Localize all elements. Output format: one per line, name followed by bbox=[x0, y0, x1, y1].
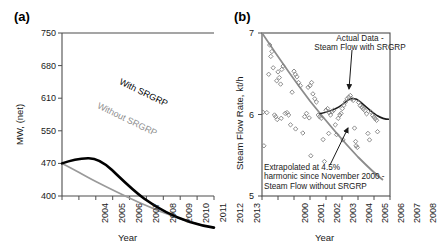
panel-b-annotation-extrapolated-line3: Steam Flow without SRGRP bbox=[264, 182, 385, 191]
panel-b-y-axis-title: Steam Flow Rate, kt/h bbox=[234, 77, 245, 170]
panel-b-x-ticks bbox=[262, 196, 390, 200]
panel-a-ytick-680: 680 bbox=[16, 61, 56, 71]
panel-b: (b) bbox=[215, 0, 433, 248]
panel-b-x-axis-title: Year bbox=[315, 232, 334, 243]
panel-a-y-ticks bbox=[58, 33, 62, 196]
panel-a-x-axis-title: Year bbox=[118, 232, 137, 243]
panel-b-annotation-actual: Actual Data - Steam Flow with SRGRP bbox=[300, 34, 420, 53]
panel-a-xtick-2010: 2010 bbox=[201, 203, 211, 237]
panel-b-annotation-extrapolated-line2: harmonic since November 2000 - bbox=[264, 172, 385, 181]
panel-a-xtick-2009: 2009 bbox=[184, 203, 194, 237]
panel-b-annotation-actual-line2: Steam Flow with SRGRP bbox=[300, 43, 420, 52]
panel-a: (a) bbox=[0, 0, 218, 248]
panel-b-y-ticks bbox=[258, 33, 262, 196]
panel-b-annotation-extrapolated: Extrapolated at 4.5% harmonic since Nove… bbox=[264, 163, 385, 191]
panel-b-xtick-2007: 2007 bbox=[412, 203, 422, 237]
panel-a-xtick-2008: 2008 bbox=[168, 203, 178, 237]
panel-b-xtick-2000: 2000 bbox=[300, 203, 310, 237]
panel-b-xtick-2006: 2006 bbox=[396, 203, 406, 237]
panel-b-annotation-extrapolated-line1: Extrapolated at 4.5% bbox=[264, 163, 385, 172]
panel-a-ytick-750: 750 bbox=[16, 28, 56, 38]
panel-b-xtick-2008: 2008 bbox=[428, 203, 438, 237]
panel-b-xtick-2004: 2004 bbox=[364, 203, 374, 237]
panel-b-xtick-2005: 2005 bbox=[380, 203, 390, 237]
panel-b-annotation-actual-line1: Actual Data - bbox=[300, 34, 420, 43]
panel-b-xtick-2003: 2003 bbox=[348, 203, 358, 237]
panel-b-arrow-actual bbox=[349, 50, 352, 89]
panel-a-ytick-400: 400 bbox=[16, 191, 56, 201]
panel-a-x-ticks bbox=[62, 196, 214, 200]
panel-b-arrow-extrapolated bbox=[330, 128, 348, 165]
panel-a-ytick-470: 470 bbox=[16, 158, 56, 168]
panel-a-xtick-2007: 2007 bbox=[151, 203, 161, 237]
panel-b-ytick-7: 7 bbox=[236, 28, 254, 38]
panel-a-ytick-610: 610 bbox=[16, 93, 56, 103]
panel-b-ytick-5: 5 bbox=[236, 191, 254, 201]
panel-a-y-axis-title: MW, (net) bbox=[14, 104, 25, 145]
panel-a-xtick-2004: 2004 bbox=[100, 203, 110, 237]
